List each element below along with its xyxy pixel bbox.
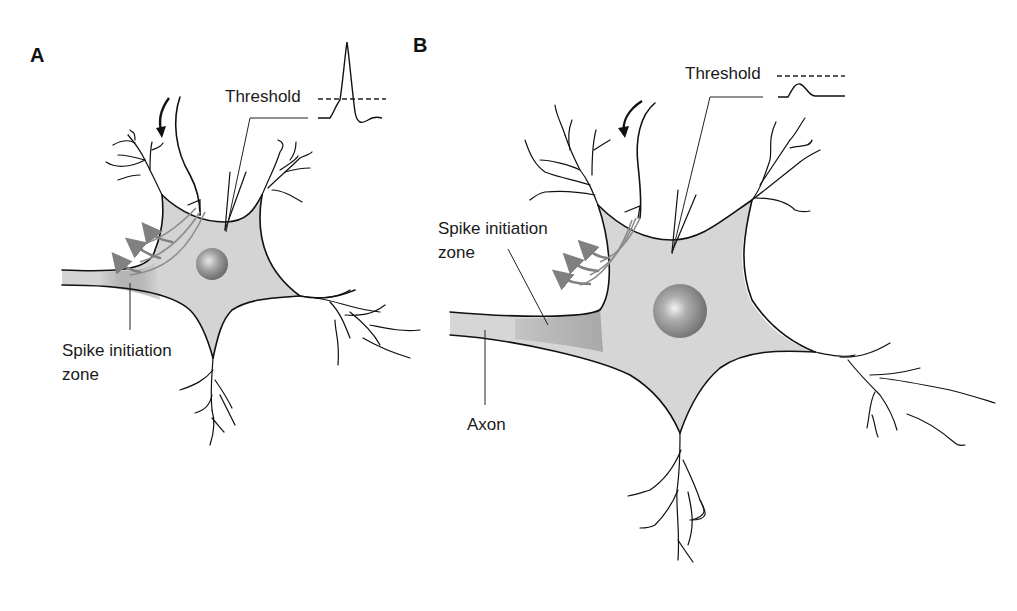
action-potential-trace-a	[318, 42, 382, 122]
subthreshold-trace-b	[778, 84, 845, 97]
threshold-label-a: Threshold	[225, 87, 301, 106]
panel-label-a: A	[30, 44, 44, 66]
neuron-diagram: A	[0, 0, 1017, 611]
panel-label-b: B	[413, 34, 427, 56]
panel-b: B	[413, 34, 995, 562]
spike-zone-label-b-line2: zone	[438, 243, 475, 262]
soma-a	[62, 195, 300, 358]
threshold-label-b: Threshold	[685, 64, 761, 83]
spike-zone-label-b-line1: Spike initiation	[438, 219, 548, 238]
axon-label-b: Axon	[467, 415, 506, 434]
nucleus-b	[653, 284, 707, 338]
spike-zone-label-a-line2: zone	[62, 365, 99, 384]
nucleus-a	[196, 248, 228, 280]
panel-a: A	[30, 42, 420, 445]
spike-zone-label-a-line1: Spike initiation	[62, 341, 172, 360]
